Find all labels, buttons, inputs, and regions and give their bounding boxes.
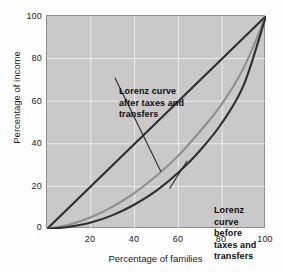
plot-area: Lorenz curve after taxes and transfers L…: [46, 15, 265, 228]
x-tick-label-40: 40: [119, 234, 149, 244]
y-tick-label-20: 20: [14, 181, 42, 191]
y-axis-title: Percentage of income: [11, 38, 22, 158]
x-tick-label-20: 20: [75, 234, 105, 244]
series-layer: [47, 16, 266, 229]
annotation-before-taxes: Lorenz curve before taxes and transfers: [214, 205, 264, 263]
annotation-after-taxes: Lorenz curve after taxes and transfers: [119, 86, 184, 121]
y-tick-label-100: 100: [14, 11, 42, 21]
plot-svg: [47, 16, 266, 229]
y-tick-label-0: 0: [14, 222, 42, 232]
lorenz-curve-figure: 100 80 60 40 20 0 20 40 60 80 100 Percen…: [0, 0, 283, 272]
x-tick-label-60: 60: [163, 234, 193, 244]
series-line-0: [47, 16, 266, 229]
